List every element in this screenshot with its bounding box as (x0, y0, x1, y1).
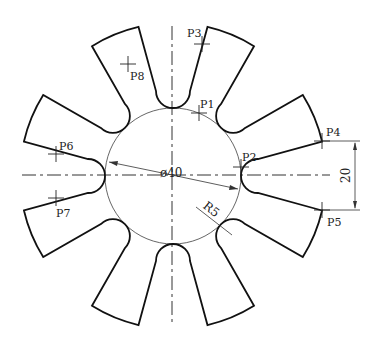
point-marker-p6: P6 (48, 140, 73, 162)
point-marker-p1: P1 (191, 98, 214, 121)
point-label: P1 (200, 98, 214, 111)
width-dimension-label: 20 (339, 168, 353, 183)
point-marker-p8: P8 (120, 56, 144, 83)
point-label: P3 (187, 27, 201, 40)
point-label: P7 (56, 207, 70, 220)
point-label: P8 (130, 70, 144, 83)
diameter-label: ø40 (160, 166, 183, 180)
point-marker-p2: P2 (233, 151, 256, 175)
gear-drawing-canvas: ø40 R5 20 P1P2P3P4P5P6P7P8 (0, 0, 381, 351)
point-marker-p7: P7 (48, 190, 70, 220)
point-markers: P1P2P3P4P5P6P7P8 (48, 27, 341, 229)
point-label: P5 (327, 216, 341, 229)
radius-label: R5 (200, 199, 222, 220)
cad-drawing: ø40 R5 20 P1P2P3P4P5P6P7P8 (0, 0, 381, 351)
point-label: P4 (326, 126, 340, 139)
point-label: P6 (59, 140, 73, 153)
dimensions: ø40 R5 20 (109, 141, 360, 235)
point-label: P2 (242, 151, 256, 164)
